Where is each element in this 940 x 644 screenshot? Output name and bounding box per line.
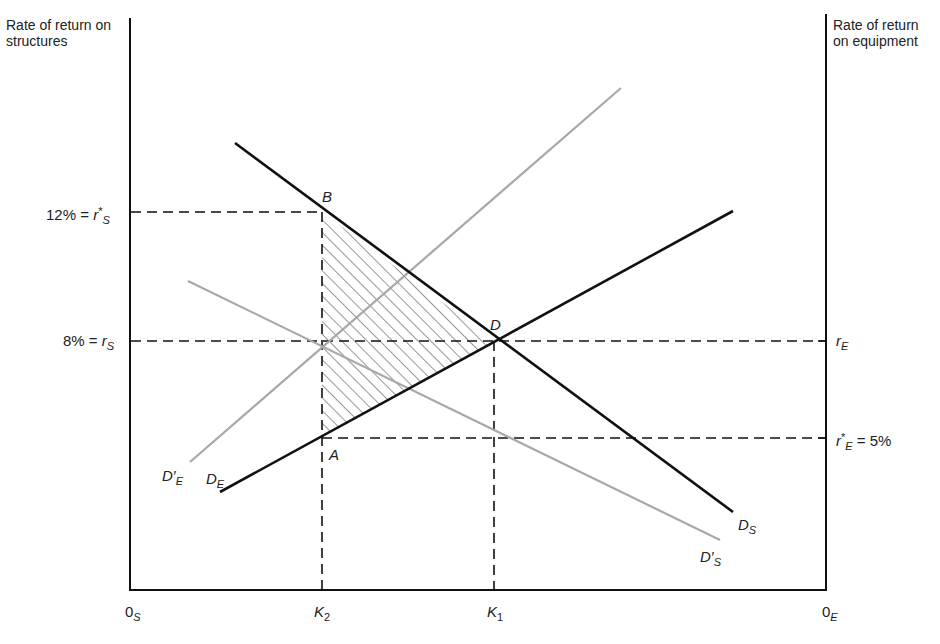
origin-label-e: 0E: [822, 603, 838, 626]
curve-base: D: [700, 548, 711, 565]
tick-sub: E: [841, 340, 848, 352]
curve-d-prime-e: [190, 88, 621, 462]
curve-sub: S: [714, 556, 721, 568]
diagram-canvas: [0, 0, 940, 644]
curve-d-e: [220, 211, 733, 492]
origin-sub: E: [830, 611, 837, 623]
tick-base: K: [314, 603, 324, 620]
curve-base: D: [162, 467, 173, 484]
tick-sub: 1: [497, 611, 503, 623]
tick-label-re-star: r*E = 5%: [836, 429, 891, 455]
tick-value: = 5%: [853, 432, 892, 449]
curve-sub: E: [176, 475, 183, 487]
point-label-b: B: [322, 188, 332, 205]
origin-label-s: 0S: [125, 603, 141, 626]
x-tick-k1: K1: [487, 603, 503, 626]
tick-sub: 2: [324, 611, 330, 623]
tick-value: 8% =: [63, 332, 102, 349]
curve-label-d-prime-e: D′E: [162, 467, 183, 490]
origin-sub: S: [133, 611, 140, 623]
tick-value: 12% =: [46, 206, 93, 223]
tick-sub: E: [845, 440, 852, 452]
curve-sub: S: [749, 524, 756, 536]
point-label-d: D: [490, 316, 501, 333]
tick-label-re: rE: [836, 332, 848, 355]
tick-label-12pct: 12% = r*S: [46, 203, 110, 229]
right-axis-title: Rate of return on equipment: [833, 17, 923, 49]
curve-label-d-e: DE: [206, 470, 224, 493]
tick-sub: S: [107, 340, 114, 352]
curve-sub: E: [217, 478, 224, 490]
curve-base: D: [206, 470, 217, 487]
x-tick-k2: K2: [314, 603, 330, 626]
tick-sub: S: [102, 214, 109, 226]
point-label-a: A: [329, 446, 339, 463]
tick-base: K: [487, 603, 497, 620]
left-axis-title: Rate of return on structures: [6, 17, 126, 49]
curve-label-d-prime-s: D′S: [700, 548, 721, 571]
tick-label-8pct: 8% = rS: [63, 332, 114, 355]
curve-label-d-s: DS: [738, 516, 756, 539]
curve-d-s: [235, 143, 733, 512]
curve-base: D: [738, 516, 749, 533]
